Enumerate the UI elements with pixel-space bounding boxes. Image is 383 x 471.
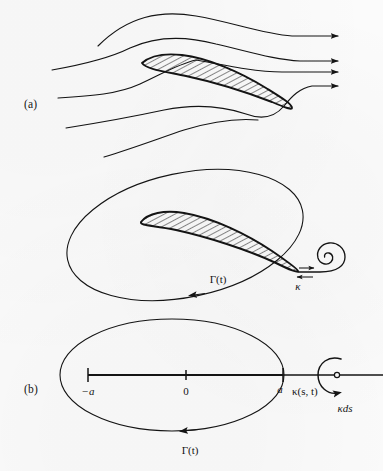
element-point-marker: [334, 372, 339, 377]
material-circuit-b: [55, 165, 316, 315]
kappa-label-b: κ: [295, 280, 301, 292]
circuit-direction-arrow-c: [183, 430, 198, 432]
panel-a-label: (a): [24, 98, 37, 110]
tick-label-minus-a: −a: [82, 385, 95, 397]
tick-label-a: a: [277, 383, 283, 395]
figure-container: (a): [0, 0, 383, 471]
streamline-5: [104, 119, 258, 157]
airfoil-b: [141, 212, 298, 272]
panel-c: −a 0 a κ(s, t) κds Γ(t) (c): [0, 315, 383, 471]
streamline-1: [98, 14, 338, 46]
tick-label-zero: 0: [183, 385, 189, 397]
streamline-4: [66, 86, 338, 128]
streamlines-group: [52, 14, 338, 157]
gamma-label-b: Γ(t): [210, 273, 227, 286]
kappa-ds-label-c: κds: [337, 402, 352, 414]
panel-b: κ Γ(t) (b): [0, 165, 383, 315]
panel-a: (a): [0, 0, 383, 165]
gamma-label-c: Γ(t): [182, 444, 199, 457]
kappa-st-label-c: κ(s, t): [292, 385, 318, 398]
airfoil-a-shape: [142, 54, 292, 108]
airfoil-a: [142, 54, 292, 108]
airfoil-b-shape: [141, 212, 298, 272]
